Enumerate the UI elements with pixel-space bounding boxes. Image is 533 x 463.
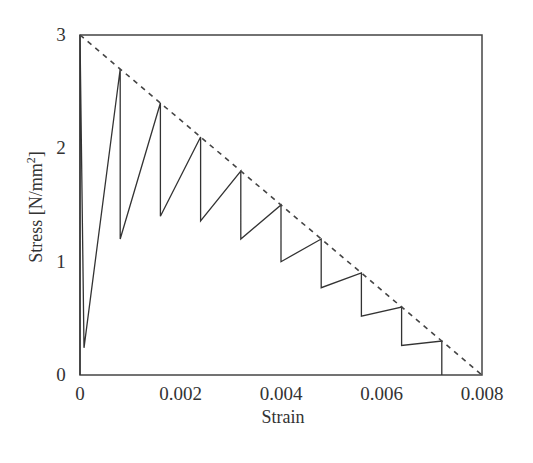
x-tick-label: 0.002 (159, 383, 202, 404)
x-axis-label: Strain (262, 407, 305, 427)
y-axis-label: Stress [N/mm2] (24, 151, 46, 263)
x-tick-label: 0 (75, 383, 85, 404)
series-layer (80, 35, 482, 375)
y-axis-label-end: ] (26, 151, 46, 157)
y-axis-label-main: Stress [N/mm (26, 163, 46, 263)
x-tick-label: 0.006 (360, 383, 403, 404)
y-tick-label: 0 (56, 364, 66, 385)
stress-strain-curve (80, 35, 442, 375)
envelope-dashed-line (80, 35, 482, 375)
y-tick-label: 2 (56, 137, 66, 158)
x-axis-ticks: 00.0020.0040.0060.008 (75, 383, 503, 404)
x-tick-label: 0.004 (260, 383, 303, 404)
y-tick-label: 1 (56, 251, 66, 272)
x-tick-label: 0.008 (461, 383, 504, 404)
stress-strain-chart: 00.0020.0040.0060.008 0123 Strain Stress… (0, 0, 533, 463)
y-tick-label: 3 (56, 24, 66, 45)
y-axis-ticks: 0123 (56, 24, 66, 385)
